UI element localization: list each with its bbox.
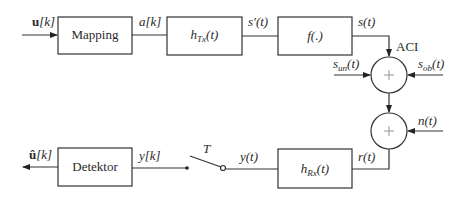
block-diagram: Mapping hTx(t) f(.) hRx(t) Detektor u[k]… xyxy=(0,0,469,200)
r-signal-label: r(t) xyxy=(358,150,375,163)
htx-label: hTx(t) xyxy=(167,28,242,44)
a-signal-label: a[k] xyxy=(139,15,161,28)
switch-label: T xyxy=(203,142,210,155)
s-prime-signal-label: s′(t) xyxy=(248,15,268,28)
y-t-signal-label: y(t) xyxy=(240,150,258,163)
s-un-label: sun(t) xyxy=(333,57,359,73)
hrx-label: hRx(t) xyxy=(278,162,352,178)
output-signal-label: û[k] xyxy=(29,148,52,161)
switch-blade xyxy=(190,156,221,167)
s-signal-label: s(t) xyxy=(358,15,375,28)
s-ob-label: sob(t) xyxy=(418,57,444,73)
input-signal-label: u[k] xyxy=(32,15,55,28)
mapping-label: Mapping xyxy=(58,28,132,41)
n-signal-label: n(t) xyxy=(418,114,437,127)
f-label: f(.) xyxy=(278,29,352,42)
detektor-label: Detektor xyxy=(58,160,132,173)
aci-label: ACI xyxy=(396,40,418,53)
s-signal-line xyxy=(352,36,389,56)
switch-open-contact xyxy=(221,166,226,171)
switch-pivot-dot xyxy=(185,166,189,170)
y-k-signal-label: y[k] xyxy=(139,149,161,162)
